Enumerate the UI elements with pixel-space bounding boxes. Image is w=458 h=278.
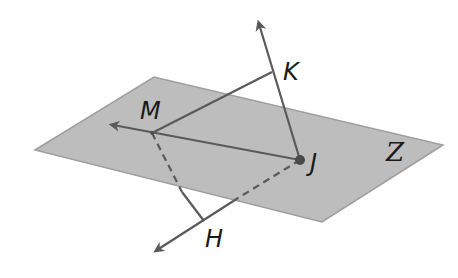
label-m: M [140,97,161,125]
geometry-diagram: M K J H Z [0,0,458,278]
point-m [150,131,154,135]
label-h: H [205,225,223,253]
point-j [295,155,305,165]
label-k: K [283,58,301,86]
ray-jh-visible [157,198,238,250]
label-plane-z: Z [385,137,405,167]
segment-mh-visible [182,192,204,221]
